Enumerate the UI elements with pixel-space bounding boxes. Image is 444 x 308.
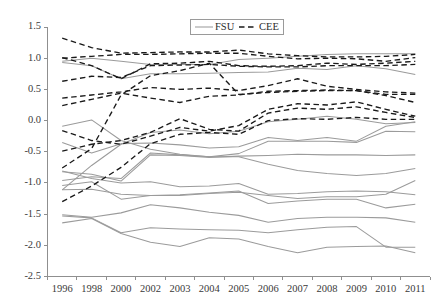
x-axis-tick-label: 2006 (258, 283, 279, 294)
chart-background (0, 0, 444, 308)
x-axis-tick-label: 2004 (199, 283, 221, 294)
y-axis-tick-label: 0.0 (28, 114, 41, 125)
x-axis-tick-label: 1996 (52, 283, 73, 294)
chart-legend: FSU CEE (191, 20, 284, 35)
y-axis-tick-label: 1.0 (28, 52, 41, 63)
legend-label-cee: CEE (259, 21, 279, 32)
x-axis-tick-label: 2007 (287, 283, 308, 294)
y-axis-tick-label: -2.5 (24, 270, 41, 281)
x-axis-tick-label: 2003 (169, 283, 190, 294)
line-chart: 1.51.00.50.0-0.5-1.0-1.5-2.0-2.5 1996199… (0, 0, 444, 308)
legend-label-fsu: FSU (215, 21, 235, 32)
y-axis-tick-label: -0.5 (24, 145, 41, 156)
y-axis-tick-label: -1.0 (24, 176, 41, 187)
x-axis-tick-label: 2008 (317, 283, 338, 294)
x-axis-tick-label: 2009 (346, 283, 367, 294)
y-axis-tick-label: -2.0 (24, 239, 41, 250)
chart-canvas: 1.51.00.50.0-0.5-1.0-1.5-2.0-2.5 1996199… (0, 0, 444, 308)
y-axis-tick-label: 0.5 (28, 83, 41, 94)
y-axis-tick-label: 1.5 (28, 20, 41, 31)
y-axis-tick-label: -1.5 (24, 208, 41, 219)
x-axis-tick-label: 2010 (375, 283, 396, 294)
x-axis-tick-label: 1998 (81, 283, 102, 294)
x-axis-tick-label: 2000 (111, 283, 132, 294)
x-axis-tick-label: 2005 (228, 283, 249, 294)
x-axis-tick-label: 2002 (140, 283, 161, 294)
x-axis-tick-label: 2011 (405, 283, 426, 294)
